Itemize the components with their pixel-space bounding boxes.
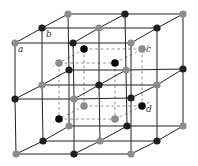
grid-edge-depth [42,70,69,85]
label-c: c [146,44,151,54]
crystal-lattice-diagram: a b c d [0,0,198,166]
gray-atom [122,66,129,73]
inner-atom-top-back-left [80,45,88,53]
gray-atom [153,81,160,88]
grid-edge-depth [99,70,126,85]
gray-atom [12,150,19,157]
grid-edge-vertical [42,85,43,141]
grid-edge-depth [43,126,69,141]
dark-atom [95,81,102,88]
gray-atom [38,81,45,88]
label-d: d [146,104,152,114]
grid-edge-horizontal [126,69,183,70]
grid-edge-depth [73,28,99,43]
grid-edge-depth [74,141,100,154]
gray-atom [95,24,102,31]
inner-atom-top-front-left [55,59,63,67]
inner-atom-bottom-back-right [138,102,146,110]
inner-atom-top-front-right [111,59,119,67]
grid-edge-depth [157,126,183,141]
inner-atom-bottom-front-right [111,115,119,123]
gray-atom [127,150,134,157]
dark-atom [38,24,45,31]
grid-edge-depth [131,85,157,98]
grid-edge-vertical [73,43,74,99]
gray-atom [179,122,186,129]
gray-atom [65,122,72,129]
gray-atom [127,39,134,46]
grid-edge-vertical [99,85,100,141]
gray-atom [70,95,77,102]
dark-atom [153,137,160,144]
grid-edge-depth [131,141,157,154]
grid-edge-depth [42,14,68,28]
dark-atom [65,66,72,73]
grid-edge-vertical [68,14,69,70]
grid-edge-depth [157,69,183,85]
grid-edge-vertical [125,14,126,70]
dark-atom [11,95,18,102]
dark-atom [121,10,128,17]
dark-atom [127,94,134,101]
grid-edge-vertical [15,99,16,154]
inner-cube-edge [115,106,142,119]
inner-cube-edge [59,49,84,63]
grid-edge-depth [99,14,125,28]
dark-atom [39,137,46,144]
grid-edge-horizontal [74,98,131,99]
gray-atom [179,10,186,17]
label-b: b [46,29,52,39]
grid-edge-depth [16,141,43,154]
dark-atom [70,150,77,157]
grid-edge-depth [15,28,42,43]
inner-atom-top-back-right [138,45,146,53]
gray-atom [96,137,103,144]
grid-edge-depth [15,85,42,99]
inner-atom-bottom-front-left [55,115,63,123]
gray-atom [64,10,71,17]
dark-atom [153,24,160,31]
grid-edge-depth [74,85,99,99]
grid-edge-depth [100,126,127,141]
label-a: a [18,44,23,54]
inner-cube-edge [115,49,142,63]
dark-atom [179,65,186,72]
grid-edge-depth [131,28,157,43]
inner-atom-bottom-back-left [80,102,88,110]
dark-atom [69,39,76,46]
inner-cube-edge [59,106,84,119]
grid-edge-depth [157,14,183,28]
dark-atom [123,122,130,129]
